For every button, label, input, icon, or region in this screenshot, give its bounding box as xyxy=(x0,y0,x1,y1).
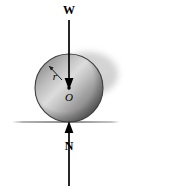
radius-label: r xyxy=(53,70,58,82)
physics-free-body-diagram: r W O N xyxy=(0,0,172,194)
diagram-canvas: r W O N xyxy=(0,0,172,194)
normal-force-arrow xyxy=(65,121,74,186)
center-label: O xyxy=(65,91,73,103)
weight-label: W xyxy=(63,3,75,17)
normal-label: N xyxy=(65,139,74,153)
center-point xyxy=(67,86,70,89)
